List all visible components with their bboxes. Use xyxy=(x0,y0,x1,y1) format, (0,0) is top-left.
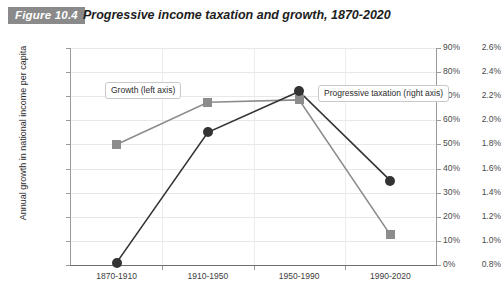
growth-marker xyxy=(203,98,212,107)
figure-title: Progressive income taxation and growth, … xyxy=(83,8,391,22)
chart-area: Annual growth in national income per cap… xyxy=(0,32,501,293)
legend-progressive-taxation-right-axis[interactable]: Progressive taxation (right axis) xyxy=(318,85,449,102)
tax-marker xyxy=(112,258,122,268)
growth-marker xyxy=(386,230,395,239)
figure-header: Figure 10.4 Progressive income taxation … xyxy=(0,0,501,32)
growth-line xyxy=(117,100,391,235)
tax-marker xyxy=(385,176,395,186)
tax-line xyxy=(117,91,391,262)
figure-number-badge: Figure 10.4 xyxy=(8,7,85,24)
legend-growth-left-axis[interactable]: Growth (left axis) xyxy=(105,82,181,99)
growth-marker xyxy=(295,95,304,104)
growth-marker xyxy=(112,140,121,149)
series-lines xyxy=(0,32,501,293)
